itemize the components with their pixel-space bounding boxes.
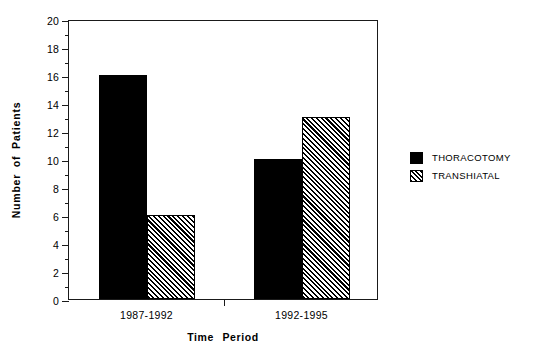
x-axis-tick	[224, 299, 225, 306]
y-axis-minor-tick	[65, 119, 69, 120]
y-axis-tick-label: 20	[47, 16, 59, 27]
x-axis-tick-label: 1992-1995	[275, 310, 328, 321]
y-axis-tick	[62, 245, 69, 246]
legend-swatch-hatched	[410, 170, 423, 182]
legend-label: THORACOTOMY	[432, 153, 511, 163]
y-axis-minor-tick	[65, 91, 69, 92]
y-axis-tick-label: 6	[53, 212, 59, 223]
y-axis-tick-label: 10	[47, 156, 59, 167]
plot-area: 02468101214161820 1987-19921992-1995	[68, 20, 378, 300]
y-axis-tick	[62, 77, 69, 78]
y-axis-minor-tick	[65, 63, 69, 64]
y-axis-tick	[62, 105, 69, 106]
y-axis-tick	[62, 217, 69, 218]
bar-thoracotomy-1992-1995	[254, 159, 302, 299]
y-axis-tick	[62, 161, 69, 162]
y-axis-tick-label: 12	[47, 128, 59, 139]
y-axis-minor-tick	[65, 203, 69, 204]
y-axis-tick-label: 0	[53, 296, 59, 307]
y-axis-tick	[62, 133, 69, 134]
y-axis-tick	[62, 49, 69, 50]
y-axis-tick	[62, 189, 69, 190]
chart-legend: THORACOTOMYTRANSHIATAL	[410, 150, 511, 186]
y-axis-tick-label: 2	[53, 268, 59, 279]
legend-item: THORACOTOMY	[410, 150, 511, 166]
y-axis-minor-tick	[65, 231, 69, 232]
y-axis-tick-label: 16	[47, 72, 59, 83]
y-axis-tick	[62, 21, 69, 22]
y-axis-minor-tick	[65, 35, 69, 36]
bar-chart-figure: 02468101214161820 1987-19921992-1995 Num…	[0, 0, 535, 350]
y-axis-tick-label: 14	[47, 100, 59, 111]
x-axis-tick-label: 1987-1992	[120, 310, 173, 321]
y-axis-tick-label: 8	[53, 184, 59, 195]
bar-transhiatal-1992-1995	[302, 117, 350, 299]
bar-transhiatal-1987-1992	[147, 215, 195, 299]
y-axis-tick-label: 18	[47, 44, 59, 55]
y-axis-minor-tick	[65, 147, 69, 148]
y-axis-minor-tick	[65, 175, 69, 176]
y-axis-tick	[62, 273, 69, 274]
legend-label: TRANSHIATAL	[432, 171, 500, 181]
legend-item: TRANSHIATAL	[410, 168, 511, 184]
y-axis-title: Number of Patients	[10, 102, 22, 219]
y-axis-tick-label: 4	[53, 240, 59, 251]
y-axis-minor-tick	[65, 259, 69, 260]
bar-thoracotomy-1987-1992	[99, 75, 147, 299]
y-axis-minor-tick	[65, 287, 69, 288]
legend-swatch-solid	[410, 152, 423, 164]
x-axis-title: Time Period	[187, 331, 259, 343]
y-axis-tick	[62, 301, 69, 302]
